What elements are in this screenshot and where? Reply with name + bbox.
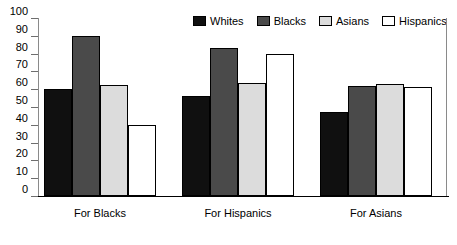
bar-blacks-for-asians [348, 86, 376, 196]
bar-hispanics-for-asians [404, 87, 432, 196]
bar-asians-for-asians [376, 84, 404, 196]
bar-asians-for-hispanics [238, 83, 266, 196]
bar-hispanics-for-hispanics [266, 54, 294, 196]
x-axis-label-for-asians: For Asians [316, 207, 436, 219]
x-axis-label-for-blacks: For Blacks [40, 207, 160, 219]
bar-blacks-for-hispanics [210, 48, 238, 196]
x-axis-label-for-hispanics: For Hispanics [178, 207, 298, 219]
bar-whites-for-blacks [44, 89, 72, 196]
bar-whites-for-hispanics [182, 96, 210, 196]
bar-chart: Whites Blacks Asians Hispanics 100908070… [0, 0, 457, 245]
bar-blacks-for-blacks [72, 36, 100, 196]
bar-hispanics-for-blacks [128, 125, 156, 196]
bar-whites-for-asians [320, 112, 348, 196]
bar-asians-for-blacks [100, 85, 128, 196]
